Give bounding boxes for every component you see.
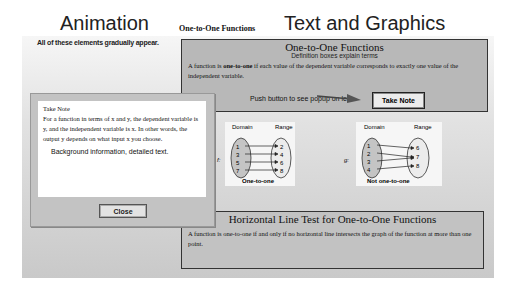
domain-value: 3 <box>367 158 370 166</box>
range-values-g: 6 7 8 <box>416 144 419 171</box>
range-value: 7 <box>416 153 419 162</box>
text-graphics-title: Text and Graphics <box>284 12 445 35</box>
take-note-button[interactable]: Take Note <box>372 92 425 109</box>
section-label: One-to-One Functions <box>179 24 255 33</box>
definition-text-prefix: A function is <box>188 62 223 69</box>
domain-value: 3 <box>236 151 239 159</box>
domain-values-f: 1 3 5 7 <box>236 143 239 175</box>
range-label-f: Range <box>275 124 293 130</box>
animation-subtitle: All of these elements gradually appear. <box>37 39 159 46</box>
definition-box: One-to-One Functions Definition boxes ex… <box>181 39 488 112</box>
domain-value: 5 <box>236 159 239 167</box>
close-button[interactable]: Close <box>99 204 147 218</box>
caption-not-one-to-one: Not one-to-one <box>367 178 410 184</box>
definition-term: one-to-one <box>223 62 252 69</box>
arrow-icon <box>317 92 362 104</box>
definition-text: A function is one-to-one if each value o… <box>182 59 487 83</box>
function-label-f: f: <box>217 157 220 163</box>
range-label-g: Range <box>414 124 432 130</box>
domain-value: 1 <box>236 143 239 151</box>
range-value: 4 <box>280 151 283 159</box>
domain-label-g: Domain <box>364 124 385 130</box>
hlt-text: A function is one-to-one if and only if … <box>182 225 483 253</box>
caption-one-to-one: One-to-one <box>242 178 274 184</box>
popup-title: Take Note <box>43 104 201 114</box>
range-value: 6 <box>416 144 419 153</box>
range-value: 8 <box>280 167 283 175</box>
popup-content: Take Note For a function in terms of x a… <box>38 101 206 197</box>
take-note-popup: Take Note For a function in terms of x a… <box>30 93 215 227</box>
range-values-f: 2 4 6 8 <box>280 143 283 175</box>
domain-value: 1 <box>367 142 370 150</box>
function-label-g: g: <box>344 157 349 163</box>
domain-value: 7 <box>236 167 239 175</box>
domain-values-g: 1 2 3 4 <box>367 142 370 174</box>
domain-value: 2 <box>367 150 370 158</box>
animation-title: Animation <box>60 12 149 35</box>
hlt-heading: Horizontal Line Test for One-to-One Func… <box>182 213 483 225</box>
range-value: 6 <box>280 159 283 167</box>
range-value: 8 <box>416 162 419 171</box>
definition-subheading: Definition boxes explain terms <box>182 52 487 59</box>
domain-label-f: Domain <box>232 124 253 130</box>
popup-background-text: Background information, detailed text. <box>43 148 201 155</box>
popup-body: For a function in terms of x and y, the … <box>43 114 201 144</box>
horizontal-line-test-box: Horizontal Line Test for One-to-One Func… <box>181 211 484 269</box>
range-value: 2 <box>280 143 283 151</box>
domain-value: 4 <box>367 166 370 174</box>
